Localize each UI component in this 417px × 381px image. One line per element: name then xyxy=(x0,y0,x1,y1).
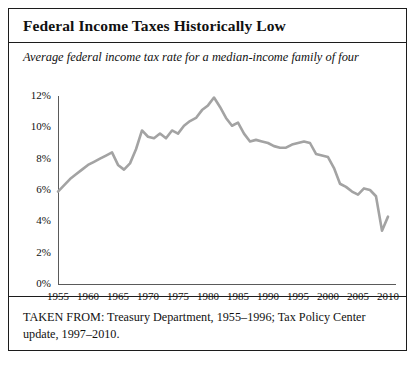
chart-figure-card: Federal Income Taxes Historically Low Av… xyxy=(8,8,407,351)
data-line-series xyxy=(9,9,408,352)
tax-rate-line xyxy=(58,98,388,231)
footer-divider xyxy=(9,296,406,297)
source-note: TAKEN FROM: Treasury Department, 1955–19… xyxy=(23,309,394,342)
line-chart-plot: 0%2%4%6%8%10%12% 19551960196519701975198… xyxy=(9,9,408,352)
